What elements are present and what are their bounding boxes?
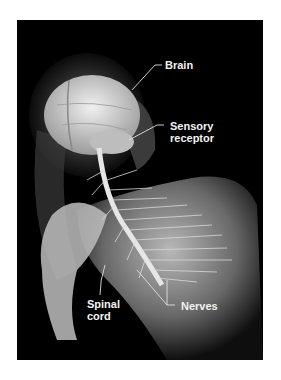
label-sensory-line2: receptor xyxy=(170,132,214,144)
label-brain: Brain xyxy=(165,59,193,71)
illustration-frame: Brain Sensory receptor Spinal cord Nerve… xyxy=(17,20,263,360)
label-spinal-line1: Spinal xyxy=(87,298,120,310)
back-shape xyxy=(77,177,263,360)
label-sensory-line1: Sensory xyxy=(170,120,213,132)
label-nerves: Nerves xyxy=(181,300,218,312)
nervous-system-illustration xyxy=(17,20,263,360)
label-spinal-line2: cord xyxy=(87,310,111,322)
